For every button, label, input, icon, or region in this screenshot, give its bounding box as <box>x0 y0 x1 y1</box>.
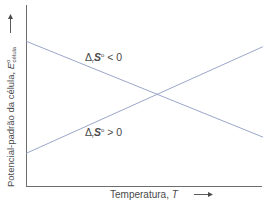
label-entropy-negative: ΔrSo < 0 <box>85 51 122 64</box>
y-axis-arrow-icon <box>8 14 13 33</box>
label-entropy-positive: ΔrSo > 0 <box>85 126 122 139</box>
y-axis-label: Potencial-padrão da célula, Eocélula <box>5 46 17 187</box>
x-axis-arrow-icon <box>194 192 213 197</box>
x-axis-label: Temperatura, T <box>110 189 179 200</box>
line-entropy-positive <box>26 47 263 154</box>
line-entropy-negative <box>26 41 263 137</box>
chart: ΔrSo < 0 ΔrSo > 0 Temperatura, T Potenci… <box>0 0 268 201</box>
